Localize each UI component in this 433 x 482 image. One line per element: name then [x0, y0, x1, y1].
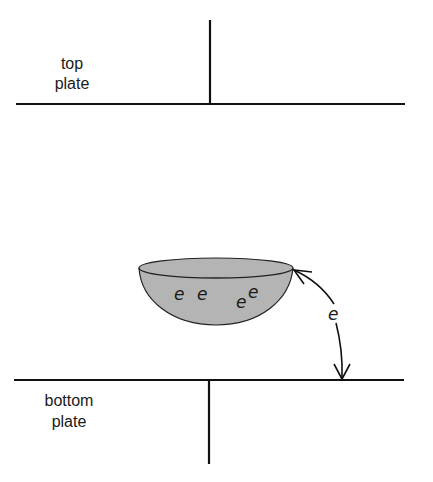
arrow-label: e [328, 304, 338, 324]
charge-e-3: e [236, 292, 246, 312]
charge-e-1: e [174, 284, 184, 304]
charge-e-2: e [197, 284, 207, 304]
top-plate-label-1: top [61, 55, 83, 72]
charge-e-4: e [248, 282, 258, 302]
capacitor-diagram: top plate e e e e e bottom plate [0, 0, 433, 482]
oil-droplet: e e e e [139, 258, 293, 325]
top-plate-label-2: plate [55, 75, 90, 92]
bottom-plate-label-1: bottom [45, 392, 94, 409]
bottom-plate-label-2: plate [52, 413, 87, 430]
bottom-plate: bottom plate [14, 380, 404, 464]
distance-arrow: e [294, 270, 350, 379]
top-plate: top plate [16, 20, 405, 104]
